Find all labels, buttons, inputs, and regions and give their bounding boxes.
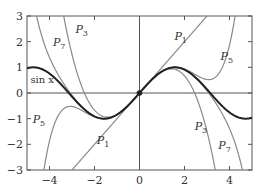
y-tick-label: 2 bbox=[16, 36, 23, 49]
x-tick-label: 2 bbox=[181, 174, 188, 187]
x-tick-label: 4 bbox=[226, 174, 233, 187]
x-tick-label: 0 bbox=[136, 174, 143, 187]
y-tick-label: −2 bbox=[7, 138, 23, 151]
x-tick-label: −2 bbox=[86, 174, 102, 187]
y-tick-label: −3 bbox=[7, 164, 23, 177]
origin-dot bbox=[137, 90, 143, 96]
y-tick-label: 1 bbox=[16, 61, 23, 74]
label-sin-x: sin x bbox=[30, 74, 54, 85]
origin-point bbox=[137, 90, 143, 96]
y-tick-label: −1 bbox=[7, 113, 23, 126]
taylor-polynomial-chart: −4−2024−3−2−10123 P7P3P1P5sin xP5P1P3P7 bbox=[0, 0, 263, 194]
label-P5: P5 bbox=[220, 50, 234, 65]
y-tick-label: 3 bbox=[16, 10, 23, 23]
label-P3: P3 bbox=[74, 23, 88, 38]
x-tick-label: −4 bbox=[41, 174, 57, 187]
curve-labels: P7P3P1P5sin xP5P1P3P7 bbox=[30, 23, 233, 155]
label-P1: P1 bbox=[173, 30, 187, 45]
label-P7: P7 bbox=[52, 36, 66, 51]
label-P5: P5 bbox=[32, 113, 46, 128]
label-P7: P7 bbox=[217, 139, 231, 154]
y-tick-label: 0 bbox=[16, 87, 23, 100]
label-P1: P1 bbox=[96, 134, 110, 149]
